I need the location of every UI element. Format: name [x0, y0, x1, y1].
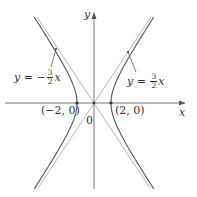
asym-neg-fraction: 32	[47, 69, 54, 86]
asym-pos-prefix: y =	[127, 75, 149, 88]
vertex-right-label: (2, 0)	[115, 105, 145, 116]
leader-right	[128, 52, 136, 72]
origin-label: 0	[86, 115, 93, 126]
origin-dot	[93, 102, 96, 105]
asym-pos-fraction: 32	[150, 73, 157, 90]
y-axis-arrow-icon	[92, 12, 97, 19]
asym-neg-den: 2	[47, 78, 54, 86]
diagram-canvas	[0, 0, 197, 197]
leader-left	[51, 49, 56, 67]
vertex-left-label: (−2, 0)	[41, 105, 80, 116]
asym-pos-den: 2	[150, 82, 157, 90]
x-axis-arrow-icon	[179, 101, 186, 106]
hyperbola-diagram: y x 0 (−2, 0) (2, 0) y = −32x y = 32x	[0, 0, 197, 197]
asymptote-negative-label: y = −32x	[14, 69, 61, 86]
leader-right-dot	[127, 51, 129, 53]
asym-neg-prefix: y = −	[14, 71, 46, 84]
leader-left-dot	[55, 48, 57, 50]
x-axis-label: x	[179, 107, 185, 118]
vertex-right-dot	[109, 101, 112, 104]
asymptote-positive-label: y = 32x	[127, 73, 164, 90]
y-axis-label: y	[84, 9, 90, 20]
asym-pos-var: x	[158, 75, 164, 88]
asym-neg-var: x	[54, 71, 60, 84]
